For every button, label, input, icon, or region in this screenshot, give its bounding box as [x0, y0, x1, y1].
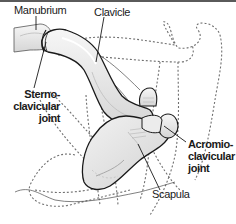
label-sternoclavicular-joint: Sterno- clavicular joint: [4, 88, 60, 124]
label-acromioclavicular-line2: clavicular: [188, 150, 236, 162]
acromioclavicular-joint-shape: [142, 115, 162, 133]
label-acromioclavicular-joint: Acromio- clavicular joint: [188, 138, 236, 174]
label-clavicle: Clavicle: [94, 6, 130, 18]
label-sternoclavicular-line2: clavicular: [4, 100, 60, 112]
label-sternoclavicular-line3: joint: [4, 112, 60, 124]
label-acromioclavicular-line1: Acromio-: [188, 138, 236, 150]
label-sternoclavicular-line1: Sterno-: [4, 88, 60, 100]
label-scapula: Scapula: [152, 188, 190, 200]
label-manubrium: Manubrium: [14, 4, 66, 16]
label-acromioclavicular-line3: joint: [188, 162, 236, 174]
acromion-process: [139, 88, 156, 106]
